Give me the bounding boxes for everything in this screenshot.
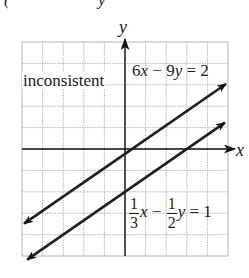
y-axis-label: y <box>119 18 127 36</box>
chart-figure: ( y y x inconsistent 6x − 9y = 2 13x − 1… <box>0 0 249 278</box>
line-series-1 <box>125 84 226 154</box>
fraction-one-third: 13 <box>129 196 139 231</box>
x-axis-label: x <box>236 141 244 159</box>
plot-area <box>0 0 249 278</box>
equation-label-1: 6x − 9y = 2 <box>132 62 209 79</box>
line-series-2 <box>27 191 126 259</box>
equation-label-2: 13x − 12y = 1 <box>128 196 212 231</box>
line-series-2 <box>126 123 225 191</box>
annotation-inconsistent: inconsistent <box>22 72 105 89</box>
fraction-one-half: 12 <box>167 196 177 231</box>
